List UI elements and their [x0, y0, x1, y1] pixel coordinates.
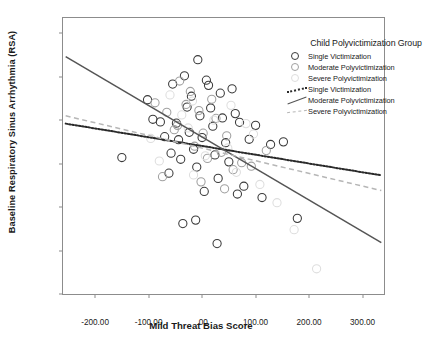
x-tick-mark: [148, 294, 149, 298]
scatter-point: [210, 116, 218, 124]
legend-label: Moderate Polyvictimization: [308, 63, 395, 72]
scatter-point: [252, 121, 260, 129]
scatter-point: [167, 149, 175, 157]
scatter-point: [227, 101, 235, 109]
x-tick-mark: [202, 294, 203, 298]
scatter-point: [166, 91, 174, 99]
line-sample-icon: [286, 106, 308, 117]
legend-line-entry: Moderate Polyvictimization: [286, 95, 427, 106]
y-tick-mark: [59, 207, 63, 208]
y-axis-title: Baseline Respiratory Sinus Arrhythmia (R…: [7, 0, 17, 272]
scatter-point: [290, 226, 298, 234]
line-sample-icon: [286, 95, 308, 106]
scatter-point: [195, 106, 203, 114]
y-tick-mark: [59, 163, 63, 164]
legend-label: Severe Polyvictimization: [308, 107, 387, 116]
scatter-point: [208, 95, 216, 103]
scatter-point: [293, 214, 301, 222]
legend-line-entry: Single Victimization: [286, 84, 427, 95]
scatter-point: [194, 56, 202, 64]
scatter-point: [266, 140, 274, 148]
scatter-point: [180, 72, 188, 80]
scatter-point: [249, 130, 257, 138]
scatter-point: [155, 157, 163, 165]
scatter-point: [233, 190, 241, 198]
scatter-point: [192, 216, 200, 224]
legend-entries: Single VictimizationModerate Polyvictimi…: [286, 51, 427, 117]
scatter-point: [197, 178, 205, 186]
scatter-point: [256, 180, 264, 188]
scatter-point: [216, 89, 224, 97]
scatter-point: [156, 118, 164, 126]
x-tick-mark: [255, 294, 256, 298]
legend-line-entry: Severe Polyvictimization: [286, 106, 427, 117]
legend-marker-entry: Moderate Polyvictimization: [286, 62, 427, 73]
scatter-point: [200, 187, 208, 195]
scatter-point: [262, 146, 270, 154]
scatter-point: [225, 158, 233, 166]
legend-marker-entry: Single Victimization: [286, 51, 427, 62]
scatter-point: [176, 77, 184, 85]
x-axis-title: Mild Threat Bias Score: [0, 320, 402, 331]
y-tick-mark: [59, 250, 63, 251]
scatter-point: [186, 87, 194, 95]
line-sample-icon: [286, 84, 308, 95]
open-circle-icon: [286, 62, 308, 73]
regression-line: [66, 116, 382, 191]
scatter-point: [220, 185, 228, 193]
scatter-point: [158, 173, 166, 181]
x-tick-mark: [362, 294, 363, 298]
legend-label: Single Victimization: [308, 85, 371, 94]
legend-marker-entry: Severe Polyvictimization: [286, 73, 427, 84]
scatter-point: [204, 81, 212, 89]
x-tick-mark: [309, 294, 310, 298]
scatter-point: [312, 265, 320, 273]
y-tick-mark: [59, 76, 63, 77]
scatter-point: [179, 219, 187, 227]
scatter-point: [193, 163, 201, 171]
y-tick-mark: [59, 294, 63, 295]
scatter-point: [178, 111, 186, 119]
scatter-point: [231, 110, 239, 118]
scatter-point: [207, 104, 215, 112]
scatter-point: [279, 138, 287, 146]
y-tick-mark: [59, 120, 63, 121]
chart-legend: Child Polyvictimization Group Single Vic…: [286, 38, 427, 117]
scatter-point: [228, 85, 236, 93]
scatter-point: [258, 193, 266, 201]
scatter-point: [188, 97, 196, 105]
scatter-point: [189, 171, 197, 179]
scatter-point: [213, 239, 221, 247]
x-tick-mark: [95, 294, 96, 298]
scatter-point: [151, 99, 159, 107]
open-circle-icon: [286, 73, 308, 84]
plot-frame: 3.00004.00005.00006.00007.00008.00009.00…: [62, 17, 385, 295]
legend-label: Single Victimization: [308, 52, 371, 61]
open-circle-icon: [286, 51, 308, 62]
legend-label: Severe Polyvictimization: [308, 74, 387, 83]
scatter-point: [203, 154, 211, 162]
scatter-point: [149, 115, 157, 123]
scatter-point: [240, 182, 248, 190]
legend-label: Moderate Polyvictimization: [308, 96, 395, 105]
scatter-point: [273, 199, 281, 207]
scatter-point: [201, 152, 209, 160]
legend-title: Child Polyvictimization Group: [286, 38, 427, 48]
scatter-point: [177, 155, 185, 163]
y-tick-mark: [59, 33, 63, 34]
scatter-point: [214, 174, 222, 182]
scatter-point: [118, 153, 126, 161]
scatter-point: [202, 76, 210, 84]
scatter-point: [245, 135, 253, 143]
